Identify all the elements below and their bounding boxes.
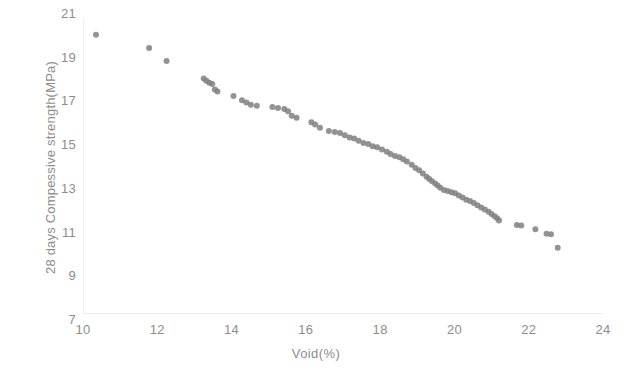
x-axis-tick-label: 16 bbox=[298, 322, 313, 337]
x-axis-tick-label: 12 bbox=[150, 322, 165, 337]
scatter-point bbox=[294, 115, 300, 121]
scatter-point bbox=[230, 93, 236, 99]
scatter-point bbox=[317, 125, 323, 131]
x-axis-title: Void(%) bbox=[0, 346, 632, 361]
y-axis-title: 28 days Compessive strength(MPa) bbox=[43, 38, 58, 298]
scatter-point bbox=[326, 128, 332, 134]
x-axis-tick-label: 22 bbox=[521, 322, 536, 337]
plot-area bbox=[83, 14, 603, 320]
x-axis-tick-label: 18 bbox=[373, 322, 388, 337]
scatter-point bbox=[214, 89, 220, 95]
scatter-point bbox=[269, 104, 275, 110]
scatter-point bbox=[164, 58, 170, 64]
y-axis-tick-label: 21 bbox=[48, 6, 76, 21]
scatter-point bbox=[555, 245, 561, 251]
x-axis-tick-label: 10 bbox=[75, 322, 90, 337]
x-axis-tick-label: 24 bbox=[595, 322, 610, 337]
scatter-point bbox=[146, 45, 152, 51]
scatter-point bbox=[496, 218, 502, 224]
scatter-point bbox=[518, 223, 524, 229]
x-axis-tick-label: 20 bbox=[447, 322, 462, 337]
x-axis-tick-labels: 1012141618202224 bbox=[0, 322, 632, 342]
scatter-points-layer bbox=[83, 14, 603, 320]
scatter-point bbox=[254, 103, 260, 109]
scatter-point bbox=[209, 81, 215, 87]
scatter-chart-figure: 79111315171921 1012141618202224 28 days … bbox=[0, 0, 632, 385]
scatter-point bbox=[532, 226, 538, 232]
scatter-point bbox=[275, 105, 281, 111]
scatter-point bbox=[93, 32, 99, 38]
scatter-point bbox=[248, 102, 254, 108]
scatter-point bbox=[332, 129, 338, 135]
scatter-point bbox=[548, 231, 554, 237]
x-axis-tick-label: 14 bbox=[224, 322, 239, 337]
